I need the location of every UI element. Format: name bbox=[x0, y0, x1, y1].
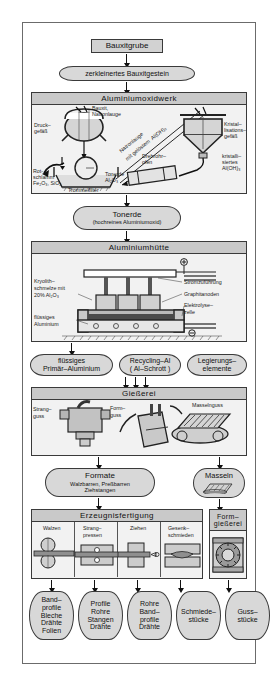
erzeugnis-cell-walzen: Walzen bbox=[32, 522, 75, 577]
section-header-giesserei: Gießerei bbox=[31, 387, 247, 400]
arrow-bauxitgrube-to-zerkleinert bbox=[126, 54, 127, 64]
label-trommelfilter: Trommelfilter bbox=[68, 187, 99, 193]
section-header-erzeugnisfertigung: Erzeugnisfertigung bbox=[31, 509, 203, 522]
section-body-giesserei: Strang– guss Form– guss Masselnguss bbox=[31, 400, 247, 456]
product-line: profile bbox=[42, 604, 61, 612]
arrow-giesserei-to-masseln bbox=[219, 457, 220, 466]
label-druckgefaess-2: gefäß bbox=[34, 128, 48, 134]
node-line-1: Recycling–Al bbox=[130, 357, 170, 365]
arrow-walzen-to-product bbox=[51, 580, 52, 589]
product-line: stücke bbox=[237, 616, 257, 624]
arrow-strangpressen-to-product bbox=[94, 580, 95, 589]
node-line-1: flüssiges bbox=[58, 357, 85, 365]
label-kristallisationsgefaess-3: gefäß bbox=[224, 133, 238, 139]
label-drehrohrofen-2: ofen bbox=[142, 159, 152, 165]
label-fluessiges-aluminium-2: Aluminium bbox=[34, 321, 59, 327]
label-graphitanoden: Graphitanoden bbox=[184, 291, 219, 297]
node-bauxitgrube: Bauxitgrube bbox=[91, 39, 163, 53]
node-subtitle-2: Ziehstangen bbox=[85, 487, 116, 493]
product-line: Schmiede– bbox=[181, 608, 216, 616]
erzeugnis-cell-gesenkschmieden: Gesenk– schmieden bbox=[161, 522, 204, 577]
section-body-aluminiumhuette: Kryolith– schmelze mit 20% Al₂O₃ flüssig… bbox=[31, 254, 247, 342]
drawing-icon bbox=[118, 541, 161, 573]
cell-label: Strang– bbox=[83, 525, 102, 531]
product-line: Rohre bbox=[91, 608, 110, 616]
arrow-ziehen-to-product bbox=[137, 580, 138, 589]
node-title: Masseln bbox=[205, 472, 233, 480]
label-bauxit-natronlauge-2: Natronlauge bbox=[92, 111, 121, 117]
section-body-aluminiumoxidwerk: Bauxit, Natronlauge Druck– gefäß Rot- sc… bbox=[31, 105, 247, 194]
node-recycling-al: Recycling–Al ( Al–Schrott ) bbox=[119, 354, 181, 376]
label-kristallisiertes-alohf-3: Al(OH)₃ bbox=[222, 165, 240, 171]
cell-label: Walzen bbox=[43, 525, 60, 531]
node-masseln: Masseln bbox=[193, 468, 245, 498]
product-line: Stangen bbox=[87, 616, 113, 624]
node-legierungselemente: Legierungs– elemente bbox=[187, 354, 247, 376]
arrow-masseln-to-formgiesserei bbox=[219, 499, 220, 508]
cell-label: Ziehen bbox=[130, 525, 146, 531]
cell-label-2: pressen bbox=[83, 532, 102, 538]
arrow-zerkleinert-to-oxidwerk bbox=[126, 82, 127, 91]
gear-casting-icon bbox=[210, 532, 246, 578]
product-line: Profile bbox=[91, 600, 111, 608]
label-strangguss: Strang– bbox=[33, 406, 52, 412]
rolling-icon bbox=[32, 534, 75, 572]
header-line-1: Form– bbox=[217, 513, 239, 520]
label-masselnguss: Masselnguss bbox=[192, 402, 223, 408]
node-fluessiges-primaraluminium: flüssiges Primär–Aluminium bbox=[30, 354, 113, 376]
label-formguss: Form– bbox=[110, 405, 125, 411]
arrow-oxidwerk-to-tonerde bbox=[126, 195, 127, 204]
section-body-formgiesserei bbox=[209, 531, 247, 579]
node-label: zerkleinertes Bauxitgestein bbox=[85, 70, 169, 78]
arrow-tonerde-to-huette bbox=[126, 231, 127, 240]
product-line: Band– bbox=[139, 608, 159, 616]
node-zerkleinertes-bauxitgestein: zerkleinertes Bauxitgestein bbox=[59, 66, 195, 81]
section-header-aluminiumoxidwerk: Aluminiumoxidwerk bbox=[31, 92, 247, 105]
arrow-gesenkschmieden-to-product bbox=[180, 580, 181, 589]
node-subtitle: (hochreines Aluminiumoxid) bbox=[93, 219, 162, 225]
product-node-bandprofile: Band– profile Bleche Drähte Folien bbox=[29, 591, 74, 640]
arrow-primaraluminium-to-giesserei bbox=[125, 377, 126, 386]
section-body-erzeugnisfertigung: Walzen Strang– pressen Ziehen bbox=[31, 522, 203, 579]
diagram-frame: Bauxitgrube zerkleinertes Bauxitgestein … bbox=[22, 22, 256, 664]
product-line: Guss– bbox=[237, 608, 257, 616]
label-kryolith-2: schmelze mit bbox=[34, 285, 65, 291]
label-stromzufuehrung: Stromzuführung bbox=[184, 279, 222, 285]
product-node-profile: Profile Rohre Stangen Drähte bbox=[78, 591, 123, 640]
label-elektrolysezelle: Elektrolyse– bbox=[184, 302, 213, 308]
section-header-aluminiumhuette: Aluminiumhütte bbox=[31, 241, 247, 254]
cell-label: Gesenk– bbox=[168, 525, 189, 531]
header-line-2: gießerei bbox=[214, 520, 243, 527]
product-node-schmiedestuecke: Schmiede– stücke bbox=[176, 591, 221, 640]
label-tonerde-small-2: Al₂O₃ bbox=[105, 177, 118, 183]
node-line-2: Primär–Aluminium bbox=[43, 365, 100, 373]
product-node-gussstuecke: Guss– stücke bbox=[225, 591, 270, 640]
product-line: Drähte bbox=[41, 619, 62, 627]
extrusion-icon bbox=[75, 541, 118, 573]
node-line-2: elemente bbox=[203, 365, 232, 373]
label-fluessiges-aluminium: flüssiges bbox=[34, 314, 55, 320]
label-kryolith-3: 20% Al₂O₃ bbox=[34, 292, 59, 298]
node-tonerde: Tonerde (hochreines Aluminiumoxid) bbox=[73, 206, 181, 230]
section-header-formgiesserei: Form– gießerei bbox=[209, 509, 247, 531]
node-title: Formate bbox=[85, 472, 115, 481]
product-node-rohre: Rohre Band– profile Drähte bbox=[127, 591, 172, 640]
label-strangguss-2: guss bbox=[33, 413, 44, 419]
erzeugnis-cell-strangpressen: Strang– pressen bbox=[75, 522, 118, 577]
product-line: Drähte bbox=[90, 623, 111, 631]
product-line: stücke bbox=[188, 616, 208, 624]
product-line: Drähte bbox=[139, 623, 160, 631]
product-line: Folien bbox=[42, 627, 61, 635]
arrow-giesserei-to-formate bbox=[98, 457, 99, 466]
ingot-icon bbox=[200, 481, 238, 494]
arrow-formate-to-erzeugnisfertigung bbox=[98, 498, 99, 507]
cell-label-2: schmieden bbox=[168, 532, 194, 538]
product-line: Bleche bbox=[41, 612, 62, 620]
arrow-huette-to-primaraluminium bbox=[71, 343, 72, 352]
forging-icon bbox=[161, 541, 204, 573]
label-formguss-2: guss bbox=[110, 412, 121, 418]
product-line: Band– bbox=[41, 596, 61, 604]
product-line: Rohre bbox=[140, 600, 159, 608]
arrow-legierung-to-giesserei bbox=[145, 377, 146, 386]
label-elektrolysezelle-2: zelle bbox=[184, 309, 195, 315]
